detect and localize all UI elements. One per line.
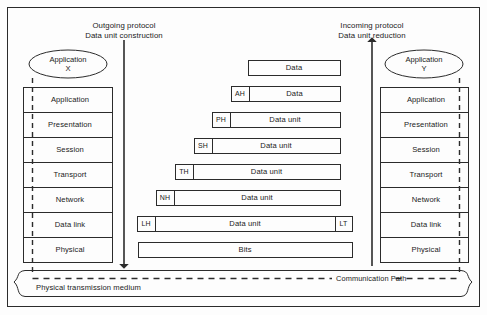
left-layer-session: Session: [56, 145, 84, 155]
incoming-heading-line2: Data unit reduction: [338, 31, 405, 41]
pdu-payload-label-data-link: Data unit: [241, 193, 272, 203]
right-endpoint-line1: Application: [405, 55, 442, 64]
pdu-payload-label-network: Data unit: [251, 167, 282, 177]
pdu-payload-label-transport: Data unit: [260, 141, 291, 151]
pdu-payload-label-application: Data: [286, 63, 302, 73]
right-layer-data-link: Data link: [411, 220, 441, 230]
right-layer-session: Session: [412, 145, 440, 155]
left-endpoint-line1: Application: [49, 55, 86, 64]
pdu-header-label-presentation: AH: [235, 89, 245, 99]
left-layer-data-link: Data link: [55, 220, 85, 230]
left-layer-presentation: Presentation: [48, 120, 92, 130]
left-layer-transport: Transport: [53, 170, 86, 180]
left-endpoint-line2: X: [49, 64, 86, 73]
right-layer-physical: Physical: [411, 245, 440, 255]
outgoing-heading-line1: Outgoing protocol: [85, 21, 163, 31]
outgoing-protocol-heading: Outgoing protocol Data unit construction: [85, 21, 163, 41]
pdu-payload-label-presentation: Data: [286, 89, 302, 99]
right-curly-brace: [461, 271, 472, 297]
left-layer-application: Application: [51, 95, 89, 105]
right-endpoint-label: Application Y: [405, 55, 442, 74]
physical-medium-label: Physical transmission medium: [36, 283, 141, 293]
right-layer-application: Application: [407, 95, 445, 105]
pdu-payload-label-physical: Data unit: [229, 219, 260, 229]
pdu-payload-label-medium: Bits: [238, 245, 251, 255]
left-layer-physical: Physical: [55, 245, 84, 255]
right-layer-transport: Transport: [409, 170, 442, 180]
left-protocol-stack: [24, 50, 113, 272]
diagram-vector-layer: [0, 0, 487, 315]
pdu-header-label-transport: SH: [198, 141, 208, 151]
pdu-header-label-session: PH: [216, 115, 226, 125]
pdu-header-label-physical: LH: [141, 219, 150, 229]
left-curly-brace: [14, 271, 25, 297]
osi-encapsulation-diagram: Outgoing protocol Data unit construction…: [0, 0, 487, 315]
pdu-header-label-data-link: NH: [160, 193, 170, 203]
left-layer-network: Network: [56, 195, 85, 205]
left-endpoint-label: Application X: [49, 55, 86, 74]
communication-path-label: Communication Path: [336, 274, 406, 284]
outer-frame: [8, 8, 480, 307]
right-protocol-stack: [381, 50, 469, 272]
incoming-protocol-heading: Incoming protocol Data unit reduction: [338, 21, 405, 41]
right-layer-network: Network: [412, 195, 441, 205]
pdu-payload-label-session: Data unit: [269, 115, 300, 125]
right-layer-presentation: Presentation: [404, 120, 448, 130]
incoming-heading-line1: Incoming protocol: [338, 21, 405, 31]
outgoing-heading-line2: Data unit construction: [85, 31, 163, 41]
pdu-trailer-label-physical: LT: [340, 219, 348, 229]
pdu-header-label-network: TH: [179, 167, 189, 177]
right-endpoint-line2: Y: [405, 64, 442, 73]
